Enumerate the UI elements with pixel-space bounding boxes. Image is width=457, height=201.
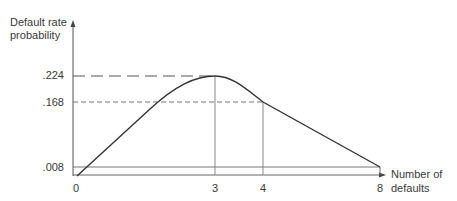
y-axis-arrow-icon xyxy=(71,20,76,27)
y-axis-label-line2: probability xyxy=(10,29,60,42)
x-tick-3: 3 xyxy=(207,182,223,195)
x-tick-0: 0 xyxy=(68,182,84,195)
y-tick-224: .224 xyxy=(34,69,64,82)
x-axis-label-line1: Number of xyxy=(391,168,442,181)
y-axis-label-line1: Default rate xyxy=(10,16,67,29)
chart-canvas xyxy=(0,0,457,201)
y-tick-008: .008 xyxy=(34,161,64,174)
y-tick-168: .168 xyxy=(34,96,64,109)
x-axis-label-line2: defaults xyxy=(391,182,430,195)
x-tick-4: 4 xyxy=(255,182,271,195)
probability-curve xyxy=(77,76,380,176)
x-tick-8: 8 xyxy=(372,182,388,195)
